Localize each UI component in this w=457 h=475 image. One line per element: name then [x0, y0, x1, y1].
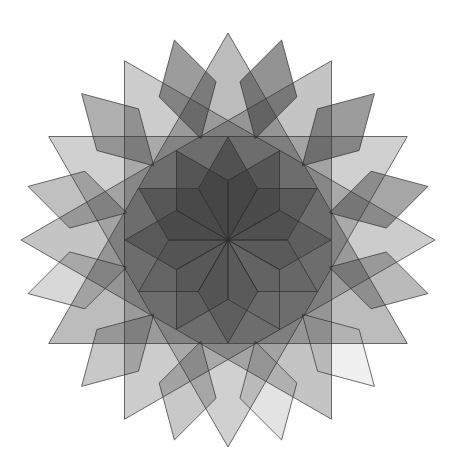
rosette-figure	[0, 0, 457, 475]
